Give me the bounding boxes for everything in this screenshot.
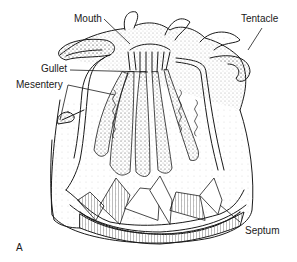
label-mesentery: Mesentery xyxy=(16,79,63,91)
panel-letter: A xyxy=(16,242,23,254)
leader-mesentery-1 xyxy=(68,85,115,95)
label-mouth: Mouth xyxy=(74,13,102,25)
label-gullet: Gullet xyxy=(41,63,67,75)
anemone-illustration xyxy=(0,0,297,262)
label-tentacle: Tentacle xyxy=(241,13,278,25)
label-septum: Septum xyxy=(245,225,279,237)
leader-tentacle xyxy=(248,28,262,50)
anemone-diagram: Mouth Tentacle Gullet Mesentery Septum A xyxy=(0,0,297,262)
